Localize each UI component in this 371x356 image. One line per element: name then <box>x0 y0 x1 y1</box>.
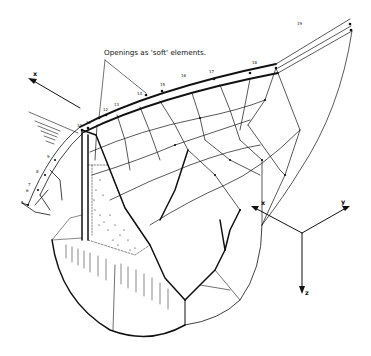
node-label: 10 <box>77 123 83 128</box>
arch-dam-mesh-diagram: Openings as 'soft' elements. x x y z 5 6… <box>0 0 371 356</box>
triad-y-label: y <box>341 198 346 206</box>
upstream-x-arrow <box>28 78 80 108</box>
node-label: 13 <box>114 102 120 107</box>
node-label: 6 <box>26 188 29 193</box>
triad-x-arrowhead <box>251 206 259 211</box>
foundation <box>52 225 262 336</box>
foundation-hatching <box>66 245 168 309</box>
node-label: 14 <box>137 91 143 96</box>
triad-z-label: z <box>305 289 309 297</box>
node-label: 8 <box>36 169 39 174</box>
triad-y-arrowhead <box>342 206 350 211</box>
node-label: 16 <box>181 73 187 78</box>
node-label: 9 <box>47 154 50 159</box>
triad-y-axis <box>302 208 346 233</box>
node-label: 17 <box>209 69 215 74</box>
node-label: 11 <box>86 120 92 125</box>
left-flank <box>22 127 84 215</box>
node-label: 15 <box>160 82 166 87</box>
axis-triad <box>251 206 350 294</box>
triad-x-label: x <box>261 199 266 207</box>
upstream-x-label: x <box>33 70 38 78</box>
node-label: 12 <box>103 107 109 112</box>
opening-contour <box>82 130 240 300</box>
node-label: 18 <box>252 60 258 65</box>
node-label: 19 <box>297 21 303 26</box>
water-surface-hatching <box>29 112 78 144</box>
node-label: 7 <box>28 182 31 187</box>
annotation-label: Openings as 'soft' elements. <box>104 48 206 57</box>
concrete-block <box>52 165 150 255</box>
